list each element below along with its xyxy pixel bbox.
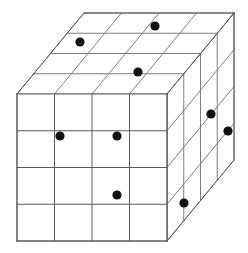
- marker-front-1: [55, 131, 64, 140]
- figure-root: [0, 0, 248, 253]
- cube-diagram: [0, 0, 248, 253]
- marker-right-3: [179, 198, 188, 207]
- marker-top-2: [150, 21, 159, 30]
- marker-front-2: [112, 131, 121, 140]
- marker-right-2: [223, 126, 232, 135]
- cube-group: [17, 13, 234, 241]
- marker-front-3: [112, 190, 121, 199]
- marker-right-1: [206, 109, 215, 118]
- marker-top-1: [75, 37, 84, 46]
- marker-top-3: [133, 67, 142, 76]
